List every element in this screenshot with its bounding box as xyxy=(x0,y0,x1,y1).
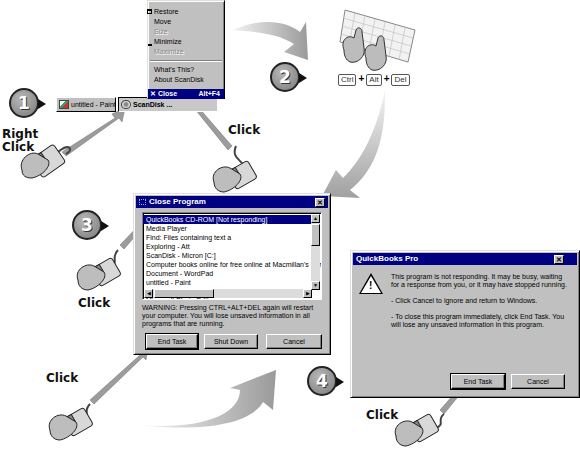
step-number: 2 xyxy=(279,67,291,87)
window-system-menu: Restore Move Size Minimize Maximize What… xyxy=(147,0,225,99)
click-close-label: Click xyxy=(228,124,260,137)
scroll-down-arrow-icon[interactable]: ▼ xyxy=(311,281,320,290)
menu-item-label: Close xyxy=(158,90,177,97)
task-list-item[interactable]: Exploring - Att xyxy=(143,242,311,251)
step-number: 4 xyxy=(316,371,328,391)
close-program-dialog: Close Program ✕ QuickBooks CD-ROM [Not r… xyxy=(133,193,331,355)
button-label: Cancel xyxy=(527,378,549,385)
scroll-right-arrow-icon[interactable]: ▶ xyxy=(303,289,312,298)
plus-separator: + xyxy=(358,73,364,84)
step-3-badge: 3 xyxy=(72,210,102,240)
scandisk-icon xyxy=(121,100,131,109)
menu-item-close[interactable]: ✕Close Alt+F4 xyxy=(148,89,224,99)
swoosh-arrow-step2-to-3 xyxy=(322,90,385,198)
keyboard-icon xyxy=(340,10,415,70)
paint-icon xyxy=(59,100,69,109)
qb-end-task-button[interactable]: End Task xyxy=(451,374,505,389)
task-list-item[interactable]: QuickBooks CD-ROM [Not responding] xyxy=(143,215,311,224)
qb-cancel-button[interactable]: Cancel xyxy=(511,374,565,389)
click-task-label: Click xyxy=(78,297,110,310)
step-number: 3 xyxy=(81,215,93,235)
taskbar-button-scandisk[interactable]: ScanDisk ... xyxy=(118,97,218,112)
button-label: End Task xyxy=(158,338,187,345)
warning-text: WARNING: Pressing CTRL+ALT+DEL again wil… xyxy=(142,304,324,328)
scroll-left-arrow-icon[interactable]: ◀ xyxy=(144,289,153,298)
task-list-item[interactable]: Find: Files containing text a xyxy=(143,233,311,242)
close-x-icon: ✕ xyxy=(150,90,156,97)
cancel-button[interactable]: Cancel xyxy=(266,334,322,349)
menu-item-shortcut: Alt+F4 xyxy=(198,89,220,99)
close-icon[interactable]: ✕ xyxy=(554,255,564,264)
scroll-up-arrow-icon[interactable]: ▲ xyxy=(311,214,320,223)
taskbar-button-label: ScanDisk ... xyxy=(133,101,172,108)
taskbar-button-label: untitled - Paint xyxy=(71,101,116,108)
warning-icon: ! xyxy=(359,273,383,295)
menu-item-size: Size xyxy=(148,27,224,37)
cancel-hint: - Click Cancel to ignore and return to W… xyxy=(391,297,571,305)
menu-item-label: Restore xyxy=(154,8,179,15)
window-icon xyxy=(139,199,146,205)
menu-item-label: About ScanDisk xyxy=(154,76,204,83)
menu-item-label: Minimize xyxy=(154,38,182,45)
keyboard-shortcut-combo: Ctrl+Alt+Del xyxy=(338,73,410,86)
button-label: Shut Down xyxy=(214,338,248,345)
task-list-item[interactable]: Document - WordPad xyxy=(143,269,311,278)
horizontal-scroll-thumb[interactable] xyxy=(154,289,214,298)
end-task-hint: - To close this program immediately, cli… xyxy=(391,313,571,329)
menu-item-label: Move xyxy=(154,18,171,25)
menu-item-minimize[interactable]: Minimize xyxy=(148,37,224,47)
not-responding-message: This program is not responding. It may b… xyxy=(391,273,571,289)
pointer-arrow-to-scandisk xyxy=(62,108,125,156)
scroll-thumb[interactable] xyxy=(311,224,320,246)
shut-down-button[interactable]: Shut Down xyxy=(204,334,258,349)
task-list-item[interactable]: Media Player xyxy=(143,224,311,233)
click-qb-end-task-label: Click xyxy=(366,409,398,422)
plus-separator: + xyxy=(384,73,390,84)
task-list-item[interactable]: Computer books online for free online at… xyxy=(143,260,311,269)
step-4-badge: 4 xyxy=(307,366,337,396)
menu-item-label: What's This? xyxy=(154,66,194,73)
swoosh-arrow-step1-to-2 xyxy=(232,22,308,60)
menu-separator xyxy=(150,60,222,62)
key-del: Del xyxy=(391,74,409,86)
menu-item-whats-this[interactable]: What's This? xyxy=(148,65,224,75)
task-list-item[interactable]: untitled - Paint xyxy=(143,278,311,287)
step-number: 1 xyxy=(18,93,30,113)
quickbooks-not-responding-dialog: QuickBooks Pro ✕ ! This program is not r… xyxy=(350,250,580,398)
step-1-badge: 1 xyxy=(9,88,39,118)
key-alt: Alt xyxy=(366,74,381,86)
close-icon[interactable]: ✕ xyxy=(315,198,325,207)
click-end-task-label: Click xyxy=(46,372,78,385)
button-label: End Task xyxy=(464,378,493,385)
right-click-label: Right Click xyxy=(2,128,38,154)
end-task-button[interactable]: End Task xyxy=(146,334,198,349)
button-label: Cancel xyxy=(283,338,305,345)
quickbooks-titlebar: QuickBooks Pro ✕ xyxy=(353,253,577,265)
swoosh-arrow-step3-to-4 xyxy=(140,370,276,428)
key-ctrl: Ctrl xyxy=(338,74,356,86)
vertical-scrollbar[interactable]: ▲ ▼ xyxy=(311,214,320,290)
dialog-title: QuickBooks Pro xyxy=(356,253,418,265)
task-list-item[interactable]: ScanDisk - Micron [C:] xyxy=(143,251,311,260)
menu-item-move[interactable]: Move xyxy=(148,17,224,27)
menu-item-maximize: Maximize xyxy=(148,47,224,57)
dialog-title: Close Program xyxy=(149,196,206,208)
minimize-icon xyxy=(148,44,152,46)
horizontal-scrollbar[interactable]: ◀ ▶ xyxy=(144,289,312,298)
right-click-label-line2: Click xyxy=(2,141,38,154)
menu-item-label: Maximize xyxy=(154,48,184,55)
task-list[interactable]: QuickBooks CD-ROM [Not responding] Media… xyxy=(142,212,322,300)
restore-icon xyxy=(147,9,152,14)
menu-item-restore[interactable]: Restore xyxy=(148,7,224,17)
taskbar-button-paint[interactable]: untitled - Paint xyxy=(56,97,116,112)
menu-item-label: Size xyxy=(154,28,168,35)
menu-item-about-scandisk[interactable]: About ScanDisk xyxy=(148,75,224,85)
close-program-titlebar: Close Program ✕ xyxy=(136,196,328,208)
step-2-badge: 2 xyxy=(270,62,300,92)
